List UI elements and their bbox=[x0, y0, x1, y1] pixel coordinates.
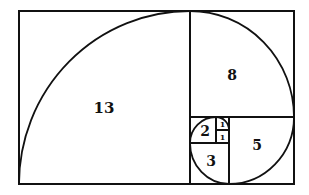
outer-rectangle bbox=[19, 11, 294, 184]
fibonacci-diagram: 13 8 5 3 2 1 1 bbox=[0, 0, 309, 195]
spiral bbox=[19, 11, 294, 184]
label-8: 8 bbox=[227, 67, 237, 83]
label-5: 5 bbox=[252, 137, 262, 153]
label-1b: 1 bbox=[220, 132, 226, 142]
label-3: 3 bbox=[206, 153, 216, 169]
label-2: 2 bbox=[200, 123, 210, 139]
label-13: 13 bbox=[94, 99, 115, 117]
label-1a: 1 bbox=[220, 119, 226, 129]
